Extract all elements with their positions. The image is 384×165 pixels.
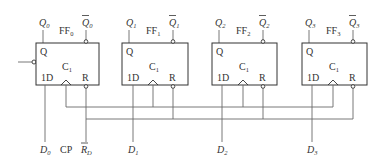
flip-flop-0: Q C1 1D R FF0 Q0 Q0 D0	[36, 16, 99, 157]
inversion-bubble-icon	[351, 85, 355, 89]
register-diagram: Q C1 1D R FF0 Q0 Q0 D0 CP RD Q C1 1D R F…	[0, 0, 384, 165]
inversion-bubble-icon	[351, 40, 355, 44]
qbar-output-label: Q0	[82, 17, 93, 29]
d-input-label: D0	[39, 144, 51, 156]
pin-r-label: R	[82, 72, 89, 83]
flip-flop-1: Q C1 1D R FF1 Q1 Q1 D1	[122, 16, 188, 157]
q-output-label: Q0	[39, 17, 50, 29]
inversion-bubble-icon	[32, 60, 36, 64]
flip-flop-3: Q C1 1D R FF3 Q3 Q3 D3	[302, 16, 367, 157]
pin-q-label: Q	[216, 46, 224, 57]
pin-q-label: Q	[126, 46, 134, 57]
pin-r-label: R	[349, 72, 356, 83]
flip-flop-name: FF1	[146, 25, 160, 37]
flip-flop-name: FF3	[326, 25, 340, 37]
pin-q-label: Q	[306, 46, 314, 57]
qbar-output-label: Q1	[169, 17, 179, 29]
pin-d-label: 1D	[41, 72, 53, 83]
inversion-bubble-icon	[261, 85, 265, 89]
q-output-label: Q3	[305, 17, 316, 29]
reset-input-label: RD	[80, 144, 92, 156]
qbar-output-label: Q3	[349, 17, 360, 29]
inversion-bubble-icon	[171, 85, 175, 89]
inversion-bubble-icon	[84, 85, 88, 89]
flip-flop-2: Q C1 1D R FF2 Q2 Q2 D2	[212, 16, 277, 157]
inversion-bubble-icon	[171, 40, 175, 44]
cp-input-label: CP	[60, 144, 73, 155]
pin-d-label: 1D	[217, 72, 229, 83]
pin-d-label: 1D	[307, 72, 319, 83]
inversion-bubble-icon	[84, 40, 88, 44]
q-output-label: Q2	[215, 17, 226, 29]
inversion-bubble-icon	[261, 40, 265, 44]
qbar-output-label: Q2	[259, 17, 270, 29]
pin-d-label: 1D	[127, 72, 139, 83]
d-input-label: D2	[216, 144, 228, 156]
pin-r-label: R	[169, 72, 176, 83]
d-input-label: D3	[306, 144, 318, 156]
pin-q-label: Q	[40, 46, 48, 57]
pin-r-label: R	[259, 72, 266, 83]
flip-flop-name: FF0	[59, 25, 73, 37]
d-input-label: D1	[127, 144, 138, 156]
q-output-label: Q1	[126, 17, 136, 29]
flip-flop-name: FF2	[236, 25, 250, 37]
